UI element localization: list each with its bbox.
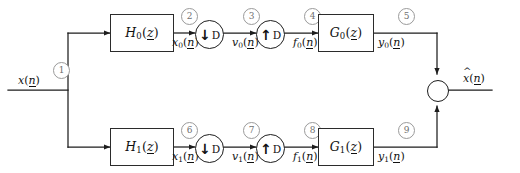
signal-label-f1: f1(n) [293, 150, 318, 164]
node-badge-2: 2 [181, 8, 198, 25]
expander-upper[interactable]: ↑D [256, 20, 285, 49]
output-signal-label: ^x(n) [463, 72, 485, 85]
arrow-down-icon: ↓ [199, 142, 211, 156]
signal-label-f0: f0(n) [293, 36, 318, 50]
decimator-lower[interactable]: ↓D [195, 134, 224, 163]
signal-label-y1: y1(n) [378, 150, 405, 164]
node-badge-7: 7 [243, 122, 260, 139]
input-signal-label: x(n) [18, 74, 40, 87]
summing-junction[interactable] [427, 80, 449, 102]
expander-lower[interactable]: ↑D [256, 134, 285, 163]
arrow-down-icon: ↓ [199, 28, 211, 42]
arrow-up-icon: ↑ [260, 28, 272, 42]
signal-label-y0: y0(n) [378, 36, 405, 50]
filter-bank-diagram: x(n) 1 H0(z) 2 x0(n) ↓D 3 v0(n) ↑D 4 f0(… [0, 0, 520, 173]
signal-label-v0: v0(n) [232, 36, 259, 50]
node-badge-6: 6 [181, 122, 198, 139]
node-badge-3: 3 [243, 8, 260, 25]
node-badge-9: 9 [398, 122, 415, 139]
analysis-filter-h0[interactable]: H0(z) [110, 14, 174, 52]
signal-label-v1: v1(n) [232, 150, 259, 164]
decimator-upper[interactable]: ↓D [195, 20, 224, 49]
arrow-up-icon: ↑ [260, 142, 272, 156]
analysis-filter-h1[interactable]: H1(z) [110, 128, 174, 166]
synthesis-filter-g1[interactable]: G1(z) [318, 128, 374, 166]
node-badge-1: 1 [53, 62, 70, 79]
node-badge-5: 5 [398, 8, 415, 25]
synthesis-filter-g0[interactable]: G0(z) [318, 14, 374, 52]
